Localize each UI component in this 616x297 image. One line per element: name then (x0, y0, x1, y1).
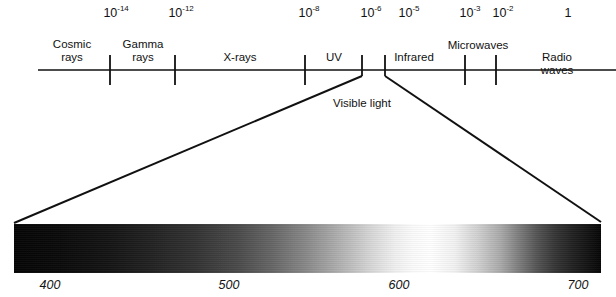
funnel-line-right (385, 76, 601, 222)
funnel-line-left (14, 76, 362, 223)
electromagnetic-spectrum-diagram: 10-14 10-12 10-8 10-6 10-5 10-3 10-2 1 C… (0, 0, 616, 297)
wavelength-label-600: 600 (389, 279, 410, 292)
visible-light-caption: Visible light (333, 98, 391, 110)
wavelength-label-700: 700 (568, 279, 589, 292)
wavelength-label-500: 500 (219, 279, 240, 292)
wavelength-label-400: 400 (40, 279, 61, 292)
visible-spectrum-bar (14, 224, 601, 273)
